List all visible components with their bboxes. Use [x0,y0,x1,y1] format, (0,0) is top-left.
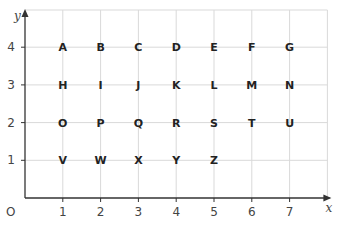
origin-label: O [6,205,15,219]
point-label-t: T [248,117,256,130]
point-label-r: R [172,117,181,130]
point-label-z: Z [210,154,218,167]
x-axis-label: x [325,201,332,215]
point-label-h: H [58,79,67,92]
point-label-d: D [172,41,181,54]
y-tick-label: 2 [7,116,15,130]
point-label-i: I [99,79,103,92]
point-label-g: G [285,41,294,54]
x-tick-label: 3 [135,205,143,219]
y-tick-label: 3 [7,78,15,92]
x-tick-label: 1 [59,205,67,219]
point-label-c: C [134,41,142,54]
y-tick-label: 4 [7,40,15,54]
point-label-w: W [95,154,107,167]
grid-lines [25,10,327,198]
point-label-u: U [285,117,294,130]
point-label-f: F [248,41,256,54]
point-label-a: A [59,41,68,54]
point-label-l: L [210,79,217,92]
point-label-o: O [58,117,67,130]
x-tick-label: 5 [210,205,218,219]
point-label-p: P [97,117,105,130]
point-label-m: M [246,79,257,92]
y-axis-label: y [13,9,21,23]
point-label-v: V [59,154,68,167]
x-tick-label: 2 [97,205,105,219]
point-label-j: J [135,79,140,92]
point-label-q: Q [134,117,143,130]
point-label-s: S [210,117,218,130]
x-tick-label: 7 [286,205,294,219]
x-tick-label: 6 [248,205,256,219]
tick-labels: 12345671234Oxy [6,9,332,219]
point-label-e: E [210,41,218,54]
point-label-y: Y [171,154,181,167]
point-label-b: B [96,41,104,54]
point-label-n: N [285,79,294,92]
point-label-k: K [172,79,181,92]
coordinate-grid: 12345671234Oxy ABCDEFGHIJKLMNOPQRSTUVWXY… [0,0,341,230]
x-tick-label: 4 [172,205,180,219]
point-label-x: X [134,154,143,167]
y-tick-label: 1 [7,153,15,167]
